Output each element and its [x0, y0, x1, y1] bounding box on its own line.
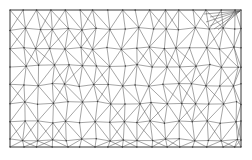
mesh-node — [122, 9, 124, 11]
mesh-node — [151, 66, 153, 68]
mesh-node — [151, 146, 153, 148]
mesh-node — [179, 138, 181, 140]
mesh-node — [222, 146, 224, 148]
mesh-node — [68, 64, 70, 66]
mesh-node — [149, 120, 151, 122]
mesh-node — [209, 28, 211, 30]
mesh-node — [208, 103, 210, 105]
mesh-node — [181, 103, 183, 105]
mesh-node — [238, 67, 240, 69]
mesh-node — [82, 101, 84, 103]
mesh-node — [148, 85, 150, 87]
mesh-node — [65, 120, 67, 122]
mesh-node — [25, 65, 27, 67]
mesh-node — [124, 103, 126, 105]
mesh-node — [240, 104, 242, 106]
mesh-node — [234, 9, 236, 11]
mesh-node — [93, 84, 95, 86]
mesh-node — [179, 66, 181, 68]
mesh-node — [234, 28, 236, 30]
mesh-node — [49, 48, 51, 50]
mesh-node — [192, 9, 194, 11]
mesh-node — [192, 121, 194, 123]
mesh-node — [240, 139, 242, 141]
mesh-node — [175, 47, 177, 49]
mesh-node — [107, 9, 109, 11]
mesh-node — [207, 120, 209, 122]
mesh-node — [191, 83, 193, 85]
mesh-node — [189, 47, 191, 49]
mesh-node — [149, 46, 151, 48]
mesh-node — [37, 103, 39, 105]
mesh-node — [23, 47, 25, 49]
mesh-node — [125, 28, 127, 30]
mesh-node — [122, 85, 124, 87]
mesh-node — [240, 83, 242, 85]
mesh-node — [96, 65, 98, 67]
mesh-node — [122, 146, 124, 148]
mesh-node — [95, 28, 97, 30]
mesh-node — [9, 30, 11, 32]
mesh-node — [164, 48, 166, 50]
mesh-node — [192, 146, 194, 148]
mesh-node — [79, 122, 81, 124]
mesh-node — [36, 9, 38, 11]
mesh-node — [36, 146, 38, 148]
mesh-node — [235, 121, 237, 123]
mesh-node — [97, 101, 99, 103]
mesh-node — [222, 27, 224, 29]
mesh-node — [52, 29, 54, 31]
mesh-node — [209, 64, 211, 66]
mesh-node — [9, 9, 11, 11]
mesh-node — [79, 86, 81, 88]
mesh-node — [240, 66, 242, 68]
mesh-node — [52, 139, 54, 141]
mesh-node — [94, 121, 96, 123]
mesh-node — [64, 83, 66, 85]
mesh-node — [24, 101, 26, 103]
mesh-node — [206, 146, 208, 148]
mesh-node — [233, 46, 235, 48]
mesh-node — [25, 27, 27, 29]
mesh-node — [109, 122, 111, 124]
mesh-node — [221, 67, 223, 69]
mesh-node — [38, 85, 40, 87]
mesh-node — [94, 146, 96, 148]
mesh-node — [82, 65, 84, 67]
mesh-node — [152, 140, 154, 142]
mesh-node — [153, 28, 155, 30]
mesh-node — [106, 47, 108, 49]
mesh-node — [240, 9, 242, 11]
mesh-node — [79, 146, 81, 148]
mesh-node — [240, 47, 242, 49]
mesh-node — [165, 138, 167, 140]
mesh-node — [166, 66, 168, 68]
mesh-node — [9, 66, 11, 68]
mesh-node — [134, 9, 136, 11]
mesh-node — [109, 66, 111, 68]
mesh-node — [37, 140, 39, 142]
mesh-node — [40, 29, 42, 31]
mesh-node — [166, 146, 168, 148]
mesh-node — [136, 47, 138, 49]
mesh-node — [23, 84, 25, 86]
mesh-node — [136, 140, 138, 142]
mesh-node — [220, 140, 222, 142]
mesh-node — [164, 122, 166, 124]
mesh-node — [52, 146, 54, 148]
mesh-node — [205, 85, 207, 87]
mesh-node — [38, 64, 40, 66]
mesh-canvas — [0, 0, 252, 160]
mesh-node — [65, 140, 67, 142]
mesh-node — [81, 138, 83, 140]
mesh-node — [67, 101, 69, 103]
mesh-node — [9, 146, 11, 148]
mesh-node — [195, 103, 197, 105]
mesh-node — [195, 65, 197, 67]
mesh-node — [109, 29, 111, 31]
mesh-node — [179, 146, 181, 148]
mesh-node — [121, 49, 123, 51]
mesh-node — [67, 146, 69, 148]
mesh-node — [80, 47, 82, 49]
mesh-node — [206, 47, 208, 49]
